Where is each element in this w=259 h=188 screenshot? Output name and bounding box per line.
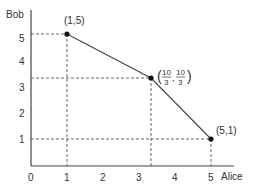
y-tick-4: 4 — [19, 56, 25, 67]
label-p2: ( 10 3 , 10 3 ) — [157, 68, 192, 87]
frontier-line — [67, 34, 211, 139]
svg-text:3: 3 — [164, 78, 169, 87]
x-tick-5: 5 — [208, 172, 214, 183]
point-5-1 — [208, 136, 213, 141]
dashed-guides — [31, 34, 211, 166]
x-tick-1: 1 — [64, 172, 70, 183]
x-tick-2: 2 — [100, 172, 106, 183]
y-tick-5: 5 — [19, 33, 25, 44]
paren-close: ) — [187, 68, 192, 84]
x-tick-3: 3 — [136, 172, 142, 183]
label-p1: (1,5) — [64, 15, 85, 26]
svg-text:3: 3 — [178, 78, 183, 87]
x-tick-0: 0 — [28, 172, 34, 183]
svg-text:,: , — [172, 73, 175, 83]
svg-text:10: 10 — [176, 68, 185, 77]
label-p3: (5,1) — [216, 125, 237, 136]
point-1-5 — [64, 31, 69, 36]
chart: (1,5) (5,1) ( 10 3 , 10 3 ) Bob Alice 0 … — [0, 0, 259, 188]
point-10-3 — [148, 75, 153, 80]
x-axis-label: Alice — [221, 171, 243, 182]
y-tick-2: 2 — [19, 108, 25, 119]
svg-text:10: 10 — [162, 68, 171, 77]
chart-svg: (1,5) (5,1) ( 10 3 , 10 3 ) Bob Alice 0 … — [0, 0, 259, 188]
y-tick-1: 1 — [19, 134, 25, 145]
y-tick-3: 3 — [19, 82, 25, 93]
x-tick-4: 4 — [172, 172, 178, 183]
y-axis-label: Bob — [6, 9, 24, 20]
